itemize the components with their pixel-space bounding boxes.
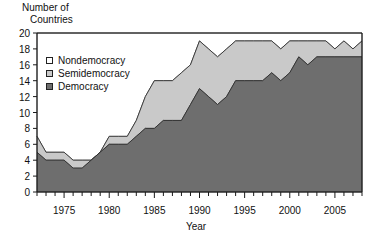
legend-label-nondemocracy: Nondemocracy (58, 55, 125, 66)
x-tick-label: 1985 (143, 205, 165, 216)
y-tick-label: 4 (10, 155, 30, 166)
legend-item-democracy: Democracy (46, 80, 130, 92)
y-tick-label: 14 (10, 75, 30, 86)
x-tick-label: 1980 (98, 205, 120, 216)
x-tick-label: 2005 (324, 205, 346, 216)
y-tick-label: 8 (10, 123, 30, 134)
x-tick-label: 2000 (279, 205, 301, 216)
y-tick-label: 16 (10, 59, 30, 70)
x-axis-title: Year (186, 221, 206, 232)
y-tick-label: 6 (10, 139, 30, 150)
y-tick-label: 10 (10, 107, 30, 118)
y-tick-label: 12 (10, 91, 30, 102)
legend-item-nondemocracy: Nondemocracy (46, 54, 130, 66)
legend-swatch-democracy-icon (46, 83, 53, 90)
legend-item-semidemocracy: Semidemocracy (46, 67, 130, 79)
x-tick-label: 1995 (234, 205, 256, 216)
chart-plot-area (0, 0, 375, 239)
y-tick-label: 20 (10, 28, 30, 39)
legend-label-democracy: Democracy (58, 81, 109, 92)
chart-figure: Number of Countries 02468101214161820 19… (0, 0, 375, 239)
x-tick-label: 1990 (188, 205, 210, 216)
y-tick-label: 18 (10, 43, 30, 54)
y-tick-label: 0 (10, 187, 30, 198)
legend-swatch-nondemocracy-icon (46, 57, 53, 64)
y-tick-label: 2 (10, 171, 30, 182)
x-tick-label: 1975 (53, 205, 75, 216)
legend-swatch-semidemocracy-icon (46, 70, 53, 77)
chart-legend: Nondemocracy Semidemocracy Democracy (46, 54, 130, 93)
legend-label-semidemocracy: Semidemocracy (58, 68, 130, 79)
